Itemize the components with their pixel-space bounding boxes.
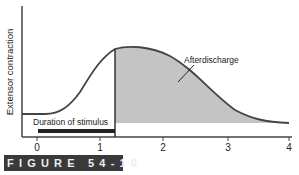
- figure-label: FIGURE 54-10: [4, 155, 123, 171]
- y-axis-label: Extensor contraction: [4, 29, 15, 116]
- x-tick-2: 2: [160, 142, 166, 153]
- stimulus-label: Duration of stimulus: [33, 117, 108, 127]
- x-tick-0: 0: [34, 142, 40, 153]
- x-tick-4: 4: [286, 142, 292, 153]
- x-tick-3: 3: [225, 142, 231, 153]
- x-tick-1: 1: [97, 142, 103, 153]
- afterdischarge-label: Afterdischarge: [184, 55, 239, 65]
- reflex-afterdischarge-chart: 0 1 2 3 4 Duration of stimulus Afterdisc…: [0, 0, 299, 175]
- stimulus-duration-bar: [38, 129, 115, 133]
